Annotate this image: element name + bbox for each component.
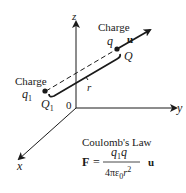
fraction-bar-graphic <box>0 0 186 193</box>
formula-denominator: 4πε0r2 <box>105 166 131 181</box>
formula-unit-vector: u <box>148 157 154 168</box>
coulombs-law-diagram: z y x 0 Charge q u Q Charge q1 Q1 r Coul… <box>0 0 186 193</box>
